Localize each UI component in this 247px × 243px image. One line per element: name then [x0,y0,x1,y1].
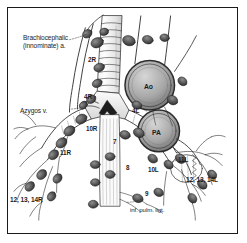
station-label-4R: 4R [84,93,92,100]
right-lung-branches [14,113,68,220]
label-brachiocephalic-line2: (innominate) a. [23,42,68,50]
label-pulmonary-artery: PA [152,129,161,137]
station-label-10R: 10R [86,125,97,132]
station-group-label-left: 12, 13, 14L [186,176,218,183]
station-label-10L: 10L [148,166,159,173]
label-inf-pulm-ligt: inf. pulm. ligt. [130,206,164,213]
figure-frame: Brachiocephalic (innominate) a. Azygos v… [7,7,238,234]
label-brachiocephalic-line1: Brachiocephalic [23,34,68,42]
station-label-11L: 11L [178,156,188,163]
station-group-label-right: 12, 13, 14R [10,196,43,203]
station-label-2R: 2R [88,56,96,63]
station-label-8: 8 [126,164,129,171]
leader-azygos [71,108,79,109]
aorta [125,16,196,110]
label-brachiocephalic: Brachiocephalic (innominate) a. [23,34,68,49]
label-azygos-vein: Azygos v. [20,107,47,115]
station-label-9: 9 [145,190,148,197]
station-label-11R: 11R [60,149,71,156]
label-aorta: Ao [144,83,153,91]
station-label-4L: 4L [132,107,139,114]
station-label-7: 7 [113,138,116,145]
